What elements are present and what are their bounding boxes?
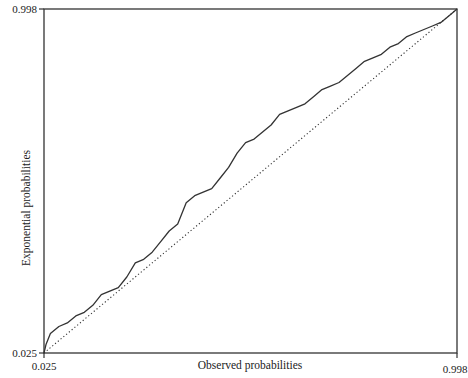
y-tick-label-min: 0.025 <box>12 347 37 359</box>
x-tick-label-max: 0.998 <box>443 363 468 375</box>
plot-frame <box>44 9 457 353</box>
pp-plot-chart: 0.998 0.025 0.025 0.998 Observed probabi… <box>0 0 468 378</box>
series-layer <box>44 9 457 353</box>
x-axis-label: Observed probabilities <box>198 359 303 372</box>
y-tick-label-max: 0.998 <box>12 3 37 15</box>
y-axis-label: Exponential probabilities <box>20 150 33 266</box>
x-tick-label-min: 0.025 <box>32 360 57 372</box>
pp-curve <box>44 9 457 353</box>
reference-line <box>44 9 457 353</box>
